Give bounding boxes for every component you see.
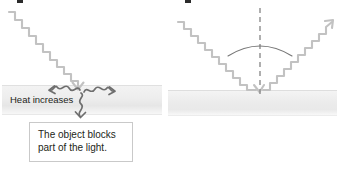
figure-label-mark-left [17, 0, 23, 3]
incoming-wavy-arrow-icon [9, 12, 84, 90]
incident-wavy-arrow-icon [178, 22, 264, 92]
reflected-wavy-arrow-icon [263, 20, 333, 90]
caption-object-blocks-light: The object blocks part of the light. [29, 122, 133, 162]
right-panel-vector-layer [168, 0, 337, 171]
diagram-figure: Heat increases The object blocks part of… [0, 0, 337, 171]
heat-arrow-right-icon [84, 87, 115, 95]
right-panel-reflection: Incident angle Angle of reflection The w… [168, 0, 337, 171]
heat-increases-label: Heat increases [10, 94, 73, 106]
heat-arrow-down-icon [76, 93, 86, 118]
left-panel-absorption: Heat increases The object blocks part of… [0, 0, 168, 171]
figure-label-mark-right [185, 0, 191, 3]
